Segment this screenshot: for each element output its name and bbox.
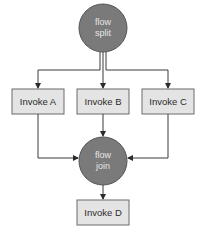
flow-split-label: flow split <box>79 14 127 42</box>
flow-join-label-line1: flow <box>95 150 111 161</box>
task-label-d: Invoke D <box>77 200 129 225</box>
split-connectors <box>38 52 168 88</box>
task-label-c: Invoke C <box>142 89 194 114</box>
flow-split-label-line2: split <box>95 28 111 39</box>
task-label-b: Invoke B <box>77 89 129 114</box>
flow-join-label: flow join <box>79 147 127 175</box>
flow-split-label-line1: flow <box>95 17 111 28</box>
task-label-a: Invoke A <box>12 89 64 114</box>
flow-join-label-line2: join <box>96 161 110 172</box>
